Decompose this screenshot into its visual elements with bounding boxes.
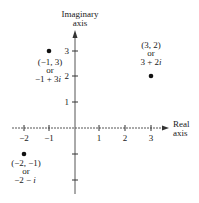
y-tick-label: 1: [65, 97, 70, 107]
point-label-complex: −1 + 3i: [35, 74, 62, 84]
x-tick-label: 3: [149, 133, 154, 143]
imaginary-axis: 3 2 1 Imaginary axis: [62, 9, 99, 194]
imaginary-axis-label: axis: [73, 18, 88, 28]
data-point-dot: [47, 49, 52, 54]
y-tick-label: 2: [65, 71, 70, 81]
complex-plane-chart: −2 −1 1 2 3 Real axis 3 2 1 Imaginary ax…: [0, 0, 199, 203]
real-axis-arrow-icon: [162, 126, 169, 131]
point-label-complex: −2 − i: [14, 175, 36, 185]
point-3-2: (3, 2) or 3 + 2i: [140, 40, 162, 78]
point-neg1-3: (−1, 3) or −1 + 3i: [35, 49, 62, 84]
y-tick-label: 3: [65, 46, 70, 56]
x-tick-label: −2: [19, 133, 29, 143]
data-point-dot: [149, 74, 154, 79]
real-axis-label: axis: [173, 128, 188, 138]
point-label-complex: 3 + 2i: [140, 57, 162, 67]
imaginary-axis-arrow-icon: [73, 30, 78, 38]
x-tick-label: 2: [123, 133, 128, 143]
x-tick-label: 1: [97, 133, 102, 143]
data-point-dot: [22, 152, 27, 157]
x-tick-label: −1: [44, 133, 54, 143]
real-axis: −2 −1 1 2 3 Real axis: [12, 119, 190, 143]
point-neg2-neg1: (−2, −1) or −2 − i: [11, 152, 41, 185]
